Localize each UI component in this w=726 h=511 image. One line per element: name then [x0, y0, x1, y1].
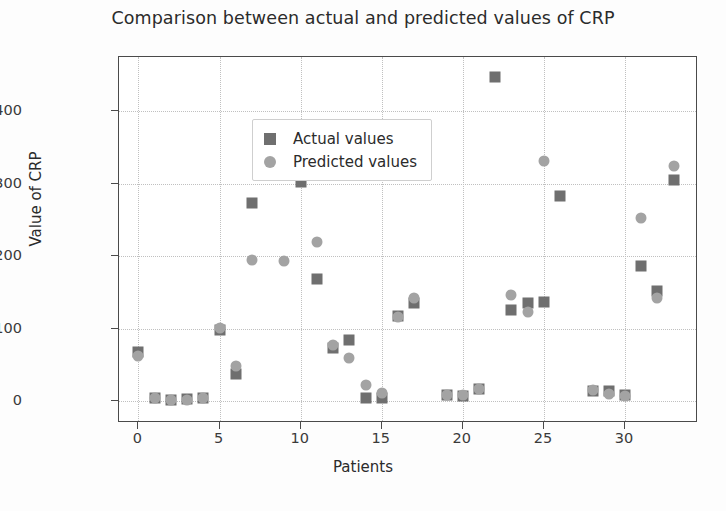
data-point-predicted [652, 293, 663, 304]
data-point-predicted [409, 293, 420, 304]
data-point-actual [636, 260, 647, 271]
data-point-actual [506, 304, 517, 315]
legend: Actual values Predicted values [252, 119, 432, 181]
data-point-predicted [344, 352, 355, 363]
y-tick-mark [111, 328, 118, 329]
x-tick-mark [137, 422, 138, 429]
y-tick-mark [111, 400, 118, 401]
y-tick-label: 300 [0, 175, 22, 191]
data-point-actual [490, 72, 501, 83]
data-point-actual [538, 296, 549, 307]
data-point-predicted [538, 156, 549, 167]
data-point-predicted [279, 255, 290, 266]
x-tick-label: 30 [604, 430, 644, 446]
square-marker-icon [264, 133, 276, 145]
data-point-predicted [441, 390, 452, 401]
data-point-actual [555, 191, 566, 202]
data-point-predicted [506, 289, 517, 300]
y-tick-label: 100 [0, 320, 22, 336]
y-tick-mark [111, 110, 118, 111]
legend-item-actual: Actual values [264, 127, 417, 150]
x-tick-label: 25 [523, 430, 563, 446]
x-tick-label: 20 [442, 430, 482, 446]
y-tick-label: 400 [0, 102, 22, 118]
data-point-actual [246, 197, 257, 208]
y-tick-label: 200 [0, 247, 22, 263]
legend-label-predicted: Predicted values [293, 153, 417, 171]
legend-label-actual: Actual values [293, 130, 394, 148]
y-axis-label: Value of CRP [27, 119, 45, 279]
data-point-predicted [392, 312, 403, 323]
x-tick-label: 0 [117, 430, 157, 446]
x-tick-mark [624, 422, 625, 429]
x-tick-label: 5 [199, 430, 239, 446]
data-point-predicted [522, 307, 533, 318]
data-point-predicted [165, 394, 176, 405]
plot-area: Actual values Predicted values [118, 56, 697, 422]
data-point-predicted [149, 392, 160, 403]
data-point-predicted [182, 394, 193, 405]
y-tick-mark [111, 255, 118, 256]
x-tick-mark [300, 422, 301, 429]
data-point-predicted [360, 379, 371, 390]
data-point-actual [344, 335, 355, 346]
data-point-predicted [376, 387, 387, 398]
data-point-actual [668, 175, 679, 186]
data-point-actual [311, 274, 322, 285]
data-point-predicted [636, 212, 647, 223]
chart-figure: Comparison between actual and predicted … [0, 0, 726, 511]
data-point-predicted [214, 323, 225, 334]
data-point-predicted [620, 391, 631, 402]
data-point-predicted [198, 392, 209, 403]
y-tick-mark [111, 183, 118, 184]
x-tick-mark [381, 422, 382, 429]
data-point-predicted [587, 384, 598, 395]
x-tick-mark [543, 422, 544, 429]
y-tick-label: 0 [0, 392, 22, 408]
data-point-predicted [328, 339, 339, 350]
data-point-predicted [474, 383, 485, 394]
x-tick-label: 10 [280, 430, 320, 446]
x-tick-mark [219, 422, 220, 429]
data-point-predicted [311, 236, 322, 247]
x-tick-label: 15 [361, 430, 401, 446]
chart-title: Comparison between actual and predicted … [0, 8, 726, 28]
data-point-predicted [457, 389, 468, 400]
circle-marker-icon [264, 156, 276, 168]
x-axis-label: Patients [0, 458, 726, 476]
data-point-actual [360, 393, 371, 404]
x-tick-mark [462, 422, 463, 429]
data-point-predicted [246, 254, 257, 265]
data-point-predicted [668, 160, 679, 171]
legend-item-predicted: Predicted values [264, 150, 417, 173]
data-point-predicted [603, 389, 614, 400]
data-points-layer [119, 57, 696, 421]
data-point-predicted [230, 361, 241, 372]
data-point-predicted [133, 350, 144, 361]
